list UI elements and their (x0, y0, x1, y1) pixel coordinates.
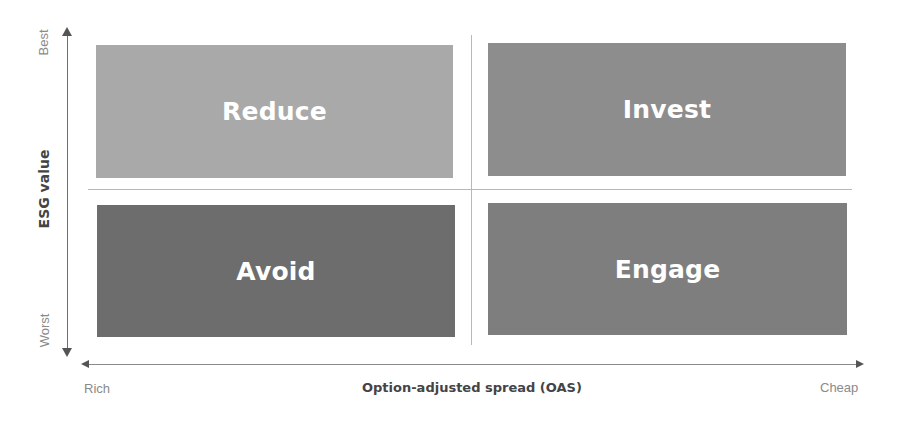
vertical-divider (471, 35, 472, 345)
quadrant-label: Avoid (236, 257, 315, 286)
quadrant-avoid: Avoid (97, 205, 455, 337)
quadrant-invest: Invest (488, 43, 846, 176)
quadrant-label: Invest (623, 95, 711, 124)
quadrant-label: Reduce (222, 97, 327, 126)
x-axis-title: Option-adjusted spread (OAS) (362, 380, 582, 395)
y-axis-bottom-label: Worst (37, 309, 52, 353)
y-axis-line (67, 34, 68, 350)
quadrant-label: Engage (615, 255, 721, 284)
y-axis-title: ESG value (36, 149, 52, 229)
horizontal-divider (88, 189, 852, 190)
arrow-left-icon (81, 360, 89, 368)
x-axis-line (88, 364, 858, 365)
quadrant-reduce: Reduce (96, 45, 453, 178)
quadrant-engage: Engage (488, 203, 847, 335)
x-axis-left-label: Rich (84, 381, 110, 396)
arrow-up-icon (62, 27, 72, 36)
x-axis-right-label: Cheap (820, 380, 858, 395)
arrow-right-icon (856, 360, 864, 368)
y-axis-top-label: Best (36, 28, 51, 58)
arrow-down-icon (62, 348, 72, 357)
